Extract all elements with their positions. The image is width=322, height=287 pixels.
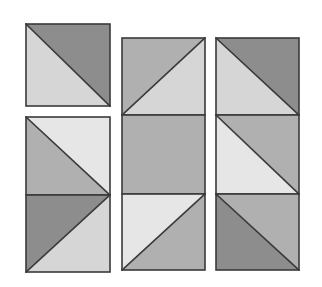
left-tile-1 — [26, 24, 110, 106]
right-column — [216, 38, 299, 270]
middle-tile-3 — [122, 194, 205, 270]
left-column — [26, 24, 110, 272]
tile-figure — [0, 0, 322, 287]
right-tile-3 — [216, 194, 299, 270]
middle-tile-2-whole — [122, 115, 205, 194]
right-tile-2 — [216, 115, 299, 194]
figure-canvas — [0, 0, 322, 287]
middle-tile-2 — [122, 115, 205, 194]
left-tile-3 — [26, 195, 110, 272]
middle-tile-1 — [122, 38, 205, 115]
left-tile-2 — [26, 117, 110, 195]
right-tile-1 — [216, 38, 299, 115]
middle-column — [122, 38, 205, 270]
